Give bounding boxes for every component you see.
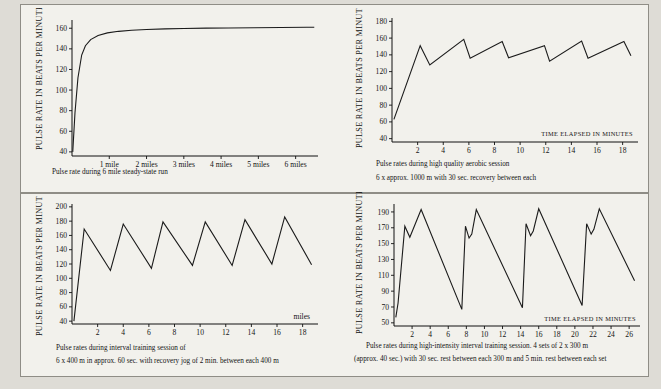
y-tick-label: 90 xyxy=(381,287,389,296)
y-ticks-steady-state-run: 406080100120140160 xyxy=(56,24,72,157)
x-tick-label: 14 xyxy=(517,330,525,339)
y-ticks-high-intensity-interval: 507090110130150170190 xyxy=(378,208,394,328)
y-tick-label: 40 xyxy=(379,134,387,143)
series-line-interval-training-400m xyxy=(74,217,312,321)
series-line-high-intensity-interval xyxy=(396,209,635,318)
axes-steady-state-run xyxy=(72,20,318,156)
x-tick-label: 2 xyxy=(416,146,420,155)
x-ticks-high-intensity-interval: 2468101214161820222426 xyxy=(410,326,633,339)
x-tick-label: 6 xyxy=(467,146,471,155)
y-tick-label: 80 xyxy=(59,106,67,115)
y-tick-label: 100 xyxy=(56,274,68,283)
y-tick-label: 100 xyxy=(376,84,388,93)
x-tick-label: 26 xyxy=(625,330,633,339)
x-tick-label: 16 xyxy=(593,146,601,155)
x-tick-label: 12 xyxy=(542,146,550,155)
x-tick-label: 8 xyxy=(173,328,177,337)
y-tick-label: 60 xyxy=(59,302,67,311)
x-tick-label: 16 xyxy=(535,330,543,339)
y-tick-label: 80 xyxy=(379,101,387,110)
y-axis-title-high-quality-aerobic: PULSE RATE IN BEATS PER MINUTE xyxy=(355,8,364,148)
x-tick-label: 16 xyxy=(273,328,281,337)
y-tick-label: 140 xyxy=(56,245,68,254)
y-ticks-interval-training-400m: 406080100120140160180200 xyxy=(56,202,72,325)
y-tick-label: 120 xyxy=(56,260,68,269)
x-tick-label: 4 xyxy=(121,328,125,337)
svg-text:PULSE RATE IN BEATS PER MINUTE: PULSE RATE IN BEATS PER MINUTE xyxy=(355,8,364,148)
x-tick-label: 20 xyxy=(571,330,579,339)
x-tick-label: 4 xyxy=(441,146,445,155)
x-tick-label: 4 xyxy=(428,330,432,339)
chart-svg-high-quality-aerobic: PULSE RATE IN BEATS PER MINUTE 406080100… xyxy=(350,8,645,168)
axes-interval-training-400m xyxy=(72,204,318,324)
x-tick-label: 8 xyxy=(464,330,468,339)
y-tick-label: 180 xyxy=(56,217,68,226)
x-tick-label: 6 xyxy=(446,330,450,339)
y-tick-label: 160 xyxy=(376,34,388,43)
x-axis-title-high-quality-aerobic: TIME ELAPSED IN MINUTES xyxy=(541,130,633,137)
chart-panel-steady-state-run: PULSE RATE IN BEATS PER MINUTE 406080100… xyxy=(30,8,325,186)
x-tick-label: 6 xyxy=(147,328,151,337)
chart-panel-high-quality-aerobic: PULSE RATE IN BEATS PER MINUTE 406080100… xyxy=(350,8,645,193)
y-tick-label: 40 xyxy=(59,317,67,326)
y-axis-title-steady-state-run: PULSE RATE IN BEATS PER MINUTE xyxy=(35,8,44,150)
x-tick-label: 12 xyxy=(222,328,230,337)
x-tick-label: 12 xyxy=(499,330,507,339)
y-tick-label: 100 xyxy=(56,86,68,95)
y-tick-label: 110 xyxy=(378,271,389,280)
x-tick-label: 4 miles xyxy=(210,160,232,169)
chart-svg-interval-training-400m: PULSE RATE IN BEATS PER MINUTE 406080100… xyxy=(30,196,325,346)
x-tick-label: 10 xyxy=(196,328,204,337)
y-tick-label: 80 xyxy=(59,288,67,297)
svg-text:PULSE RATE IN BEATS PER MINUTE: PULSE RATE IN BEATS PER MINUTE xyxy=(355,192,364,334)
chart-panel-high-intensity-interval: PULSE RATE IN BEATS PER MINUTE 507090110… xyxy=(350,192,645,374)
x-tick-label: 24 xyxy=(607,330,615,339)
x-tick-label: 5 miles xyxy=(247,160,269,169)
x-tick-label: 18 xyxy=(299,328,307,337)
chart-svg-steady-state-run: PULSE RATE IN BEATS PER MINUTE 406080100… xyxy=(30,8,325,186)
x-tick-label: 10 xyxy=(516,146,524,155)
y-tick-label: 180 xyxy=(376,17,388,26)
y-tick-label: 60 xyxy=(59,127,67,136)
caption-high-intensity-interval-line1: Pulse rates during high-intensity interv… xyxy=(366,342,588,351)
y-tick-label: 140 xyxy=(376,50,388,59)
axes-high-intensity-interval xyxy=(394,204,640,326)
caption-interval-training-400m-line1: Pulse rates during interval training ses… xyxy=(56,344,186,353)
x-tick-label: 3 miles xyxy=(173,160,195,169)
caption-high-intensity-interval-line2: (approx. 40 sec.) with 30 sec. rest betw… xyxy=(354,355,606,364)
y-tick-label: 140 xyxy=(56,44,68,53)
series-line-steady-state-run xyxy=(73,27,315,152)
x-axis-title-interval-training-400m: miles xyxy=(294,312,310,321)
caption-high-quality-aerobic-line1: Pulse rates during high quality aerobic … xyxy=(376,160,509,169)
caption-steady-state-run: Pulse rate during 6 mile steady-state ru… xyxy=(52,168,168,177)
y-tick-label: 120 xyxy=(56,65,68,74)
y-ticks-high-quality-aerobic: 406080100120140160180 xyxy=(376,17,392,143)
x-tick-label: 2 xyxy=(410,330,414,339)
y-tick-label: 170 xyxy=(378,223,390,232)
x-tick-label: 18 xyxy=(619,146,627,155)
x-ticks-high-quality-aerobic: 24681012141618 xyxy=(416,142,627,155)
series-line-high-quality-aerobic xyxy=(394,39,631,119)
x-tick-label: 18 xyxy=(553,330,561,339)
x-tick-label: 14 xyxy=(248,328,256,337)
y-tick-label: 50 xyxy=(381,318,389,327)
x-tick-label: 8 xyxy=(493,146,497,155)
axes-high-quality-aerobic xyxy=(392,18,638,142)
y-tick-label: 120 xyxy=(376,67,388,76)
y-tick-label: 160 xyxy=(56,24,68,33)
caption-interval-training-400m-line2: 6 x 400 m in approx. 60 sec. with recove… xyxy=(56,357,279,366)
y-tick-label: 190 xyxy=(378,208,390,217)
chart-svg-high-intensity-interval: PULSE RATE IN BEATS PER MINUTE 507090110… xyxy=(350,192,645,344)
y-axis-title-high-intensity-interval: PULSE RATE IN BEATS PER MINUTE xyxy=(355,192,364,334)
x-tick-label: 6 miles xyxy=(285,160,307,169)
y-tick-label: 60 xyxy=(379,117,387,126)
y-tick-label: 160 xyxy=(56,231,68,240)
y-tick-label: 200 xyxy=(56,202,68,211)
page-background: PULSE RATE IN BEATS PER MINUTE 406080100… xyxy=(0,0,661,389)
x-tick-label: 10 xyxy=(481,330,489,339)
x-tick-label: 22 xyxy=(589,330,597,339)
x-tick-label: 14 xyxy=(568,146,576,155)
y-tick-label: 40 xyxy=(59,147,67,156)
y-tick-label: 150 xyxy=(378,239,390,248)
chart-panel-interval-training-400m: PULSE RATE IN BEATS PER MINUTE 406080100… xyxy=(30,196,325,374)
